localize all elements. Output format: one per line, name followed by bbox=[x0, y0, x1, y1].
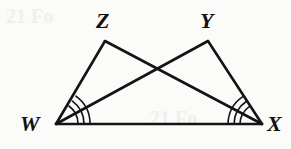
figure-canvas bbox=[0, 0, 291, 149]
segment-YX bbox=[208, 41, 262, 124]
vertex-label-X: X bbox=[267, 113, 282, 135]
vertex-label-Z: Z bbox=[96, 10, 109, 32]
vertex-label-W: W bbox=[20, 113, 40, 135]
geometry-figure: 21 Fo 21 Fo Z Y W X bbox=[0, 0, 291, 149]
vertex-label-Y: Y bbox=[200, 10, 213, 32]
